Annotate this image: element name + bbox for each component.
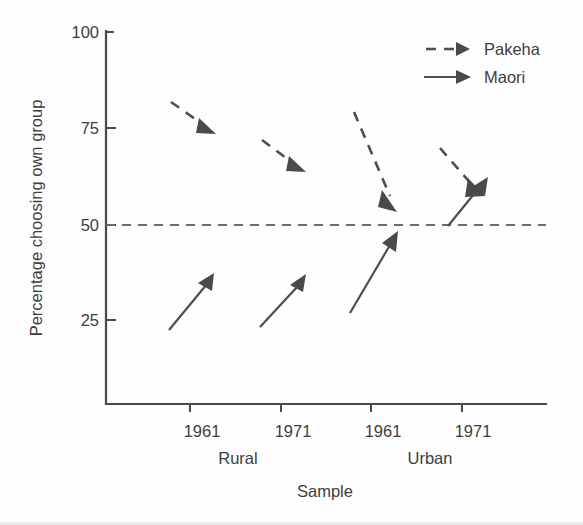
pakeha-arrowhead-rural-1961: [196, 118, 216, 134]
pakeha-arrowhead-urban-1961: [378, 190, 397, 212]
pakeha-segment-rural-1961: [171, 102, 216, 134]
pakeha-segment-urban-1961: [354, 112, 397, 212]
series-maori: [169, 177, 488, 330]
y-tick-label-25: 25: [81, 311, 99, 329]
y-tick-label-75: 75: [81, 119, 99, 137]
maori-arrowhead-rural-1971: [290, 274, 306, 292]
group-label-urban: Urban: [408, 449, 453, 467]
maori-arrowhead-urban-1961: [382, 231, 398, 252]
y-axis-title: Percentage choosing own group: [27, 100, 45, 337]
legend-arrow-icon-maori: [456, 70, 471, 84]
x-tick-label-rural-1971: 1971: [275, 422, 312, 440]
maori-segment-rural-1971: [260, 274, 306, 327]
legend-label-pakeha: Pakeha: [484, 40, 541, 58]
x-tick-label-urban-1961: 1961: [365, 422, 402, 440]
x-axis-group-labels: Rural Urban: [218, 449, 452, 467]
x-axis-tick-labels: 1961 1971 1961 1971: [184, 422, 492, 440]
y-tick-label-50: 50: [81, 216, 99, 234]
legend-item-maori[interactable]: Maori: [424, 68, 525, 86]
arrow-trend-chart: 100 75 50 25 Percentage choosing own gro…: [0, 0, 583, 525]
legend-label-maori: Maori: [484, 68, 525, 86]
maori-segment-urban-1961: [350, 231, 398, 313]
series-pakeha: [171, 102, 485, 212]
pakeha-segment-rural-1971: [262, 140, 306, 172]
x-axis-ticks: [190, 404, 462, 412]
maori-segment-rural-1961: [169, 273, 214, 330]
legend: Pakeha Maori: [424, 40, 541, 86]
y-axis-ticks: [106, 32, 116, 320]
axis-frame: [106, 31, 546, 404]
y-axis-tick-labels: 100 75 50 25: [71, 23, 99, 329]
group-label-rural: Rural: [218, 449, 257, 467]
x-axis-title: Sample: [297, 482, 353, 500]
chart-figure: 100 75 50 25 Percentage choosing own gro…: [0, 0, 583, 525]
pakeha-arrowhead-rural-1971: [286, 156, 306, 172]
legend-item-pakeha[interactable]: Pakeha: [426, 40, 541, 58]
y-tick-label-100: 100: [71, 23, 99, 41]
maori-arrowhead-rural-1961: [198, 273, 214, 291]
x-tick-label-urban-1971: 1971: [455, 422, 492, 440]
x-tick-label-rural-1961: 1961: [184, 422, 221, 440]
legend-arrow-icon-pakeha: [456, 42, 470, 56]
